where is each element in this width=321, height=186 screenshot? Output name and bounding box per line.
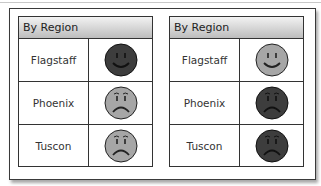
region-panel-left: By Region Flagstaff Phoenix Tuscon xyxy=(18,16,153,167)
region-label: Flagstaff xyxy=(19,39,89,81)
happy-face-icon xyxy=(255,43,289,77)
region-label: Phoenix xyxy=(19,82,89,124)
region-label: Phoenix xyxy=(170,82,240,124)
region-label: Tuscon xyxy=(170,125,240,167)
sad-face-icon xyxy=(104,86,138,120)
face-cell xyxy=(89,82,152,124)
table-row: Tuscon xyxy=(170,125,303,167)
sad-face-icon xyxy=(104,129,138,163)
panel-header: By Region xyxy=(19,17,152,39)
sad-face-icon xyxy=(255,86,289,120)
face-cell xyxy=(240,125,303,167)
sad-face-icon xyxy=(255,129,289,163)
face-cell xyxy=(240,39,303,81)
table-row: Flagstaff xyxy=(170,39,303,82)
region-panel-right: By Region Flagstaff Phoenix Tuscon xyxy=(169,16,304,167)
top-rule xyxy=(0,2,321,3)
table-row: Phoenix xyxy=(170,82,303,125)
panel-header: By Region xyxy=(170,17,303,39)
region-label: Flagstaff xyxy=(170,39,240,81)
table-row: Phoenix xyxy=(19,82,152,125)
face-cell xyxy=(240,82,303,124)
table-row: Flagstaff xyxy=(19,39,152,82)
face-cell xyxy=(89,39,152,81)
region-label: Tuscon xyxy=(19,125,89,167)
happy-face-icon xyxy=(104,43,138,77)
face-cell xyxy=(89,125,152,167)
table-row: Tuscon xyxy=(19,125,152,167)
